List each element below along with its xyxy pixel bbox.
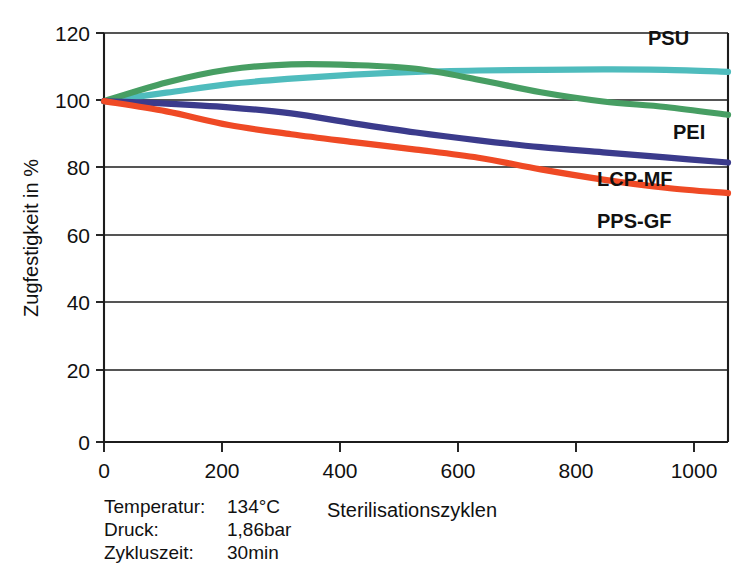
- series-label-lcp-mf: LCP-MF: [597, 168, 673, 190]
- tensile-strength-line-chart: 120 100 80 60 40 20 0 0 200 400 600 800 …: [0, 0, 754, 584]
- y-axis-ticks: [96, 33, 104, 442]
- series-labels: PSU PEI LCP-MF PPS-GF: [597, 27, 705, 232]
- annotation-value-zykluszeit: 30min: [227, 542, 279, 563]
- annotation-label-druck: Druck:: [104, 519, 159, 540]
- annotation-label-zykluszeit: Zykluszeit:: [104, 542, 194, 563]
- xtick-label-600: 600: [440, 459, 475, 482]
- y-axis-tick-labels: 120 100 80 60 40 20 0: [55, 22, 90, 454]
- conditions-annotation: Temperatur: 134°C Druck: 1,86bar Zyklusz…: [104, 496, 292, 563]
- xtick-label-200: 200: [204, 459, 239, 482]
- ytick-label-100: 100: [55, 89, 90, 112]
- plot-gridlines: [104, 33, 728, 370]
- xtick-label-400: 400: [322, 459, 357, 482]
- ytick-label-20: 20: [67, 359, 90, 382]
- series-label-pps-gf: PPS-GF: [597, 210, 671, 232]
- series-line-lcp-mf: [104, 101, 728, 162]
- x-axis-ticks: [104, 442, 694, 452]
- ytick-label-60: 60: [67, 224, 90, 247]
- ytick-label-120: 120: [55, 22, 90, 45]
- plot-frame: [104, 33, 728, 442]
- annotation-value-druck: 1,86bar: [227, 519, 292, 540]
- xtick-label-0: 0: [98, 459, 110, 482]
- annotation-value-temperatur: 134°C: [227, 496, 280, 517]
- ytick-label-40: 40: [67, 291, 90, 314]
- annotation-label-temperatur: Temperatur:: [104, 496, 205, 517]
- xtick-label-800: 800: [558, 459, 593, 482]
- series-label-psu: PSU: [648, 27, 689, 49]
- series-label-pei: PEI: [673, 121, 705, 143]
- ytick-label-0: 0: [78, 431, 90, 454]
- y-axis-title: Zugfestigkeit in %: [20, 159, 42, 317]
- ytick-label-80: 80: [67, 156, 90, 179]
- xtick-label-1000: 1000: [671, 459, 718, 482]
- x-axis-title: Sterilisationszyklen: [327, 499, 497, 521]
- chart-figure: 120 100 80 60 40 20 0 0 200 400 600 800 …: [0, 0, 754, 584]
- x-axis-tick-labels: 0 200 400 600 800 1000: [98, 459, 717, 482]
